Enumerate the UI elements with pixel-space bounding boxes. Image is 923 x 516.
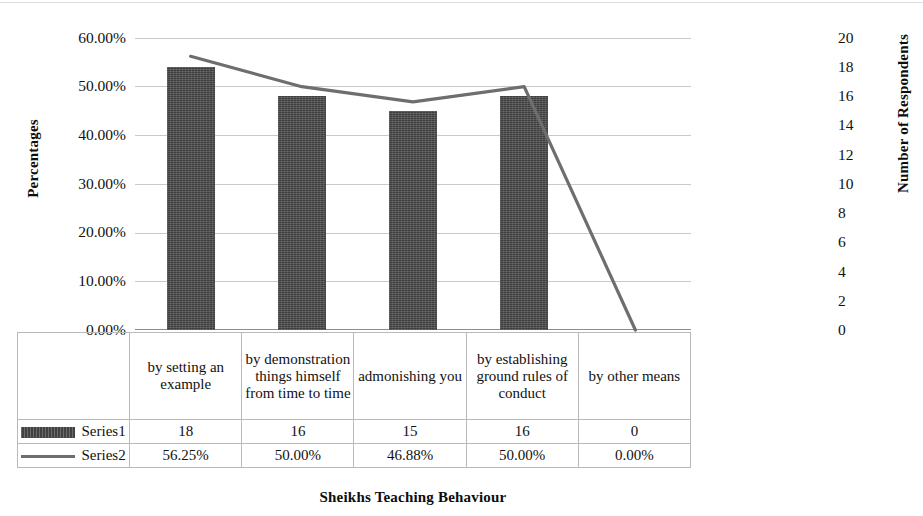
line-series2 [135, 38, 691, 330]
y-axis-right-tick: 10 [838, 176, 898, 192]
category-header-cell: by other means [578, 333, 690, 420]
legend-entry-series2: Series2 [18, 444, 130, 468]
y-axis-right-tick: 20 [838, 30, 898, 46]
table-corner-blank [18, 333, 130, 420]
plot-area [135, 38, 691, 330]
value-cell: 18 [130, 420, 242, 444]
value-cell: 46.88% [354, 444, 466, 468]
y-axis-right-tick: 18 [838, 59, 898, 75]
y-axis-right-tick: 8 [838, 205, 898, 221]
value-cell: 50.00% [466, 444, 578, 468]
y-axis-left-title: Percentages [25, 74, 42, 244]
category-header-cell: by demonstration things himself from tim… [242, 333, 354, 420]
value-cell: 56.25% [130, 444, 242, 468]
line-swatch-icon [21, 455, 75, 458]
category-header-cell: by setting an example [130, 333, 242, 420]
value-cell: 16 [242, 420, 354, 444]
y-axis-right-tick: 16 [838, 88, 898, 104]
value-cell: 0 [578, 420, 690, 444]
y-axis-left-tick: 10.00% [30, 273, 126, 289]
y-axis-right-tick: 0 [838, 322, 898, 338]
chart-data-table: by setting an example by demonstration t… [17, 332, 691, 468]
y-axis-right-tick: 2 [838, 293, 898, 309]
value-cell: 15 [354, 420, 466, 444]
category-header-cell: by establishing ground rules of conduct [466, 333, 578, 420]
y-axis-left-tick: 50.00% [30, 78, 126, 94]
y-axis-left-tick: 60.00% [30, 30, 126, 46]
y-axis-right-tick: 12 [838, 147, 898, 163]
legend-label: Series1 [81, 424, 125, 440]
value-cell: 50.00% [242, 444, 354, 468]
legend-entry-series1: Series1 [18, 420, 130, 444]
legend-label: Series2 [81, 448, 125, 464]
scan-artifact-line [0, 2, 923, 3]
y-axis-left-tick: 20.00% [30, 224, 126, 240]
table-row-categories: by setting an example by demonstration t… [18, 333, 691, 420]
value-cell: 16 [466, 420, 578, 444]
y-axis-right-tick: 4 [838, 264, 898, 280]
category-header-cell: admonishing you [354, 333, 466, 420]
combo-chart: Percentages Number of Respondents Sheikh… [0, 0, 923, 516]
table-row-series2: Series2 56.25% 50.00% 46.88% 50.00% 0.00… [18, 444, 691, 468]
y-axis-right-tick: 6 [838, 234, 898, 250]
x-axis-title: Sheikhs Teaching Behaviour [135, 489, 691, 506]
y-axis-left-tick: 40.00% [30, 127, 126, 143]
table-row-series1: Series1 18 16 15 16 0 [18, 420, 691, 444]
y-axis-left-tick: 30.00% [30, 176, 126, 192]
y-axis-right-tick: 14 [838, 117, 898, 133]
bar-swatch-icon [21, 427, 75, 438]
value-cell: 0.00% [578, 444, 690, 468]
